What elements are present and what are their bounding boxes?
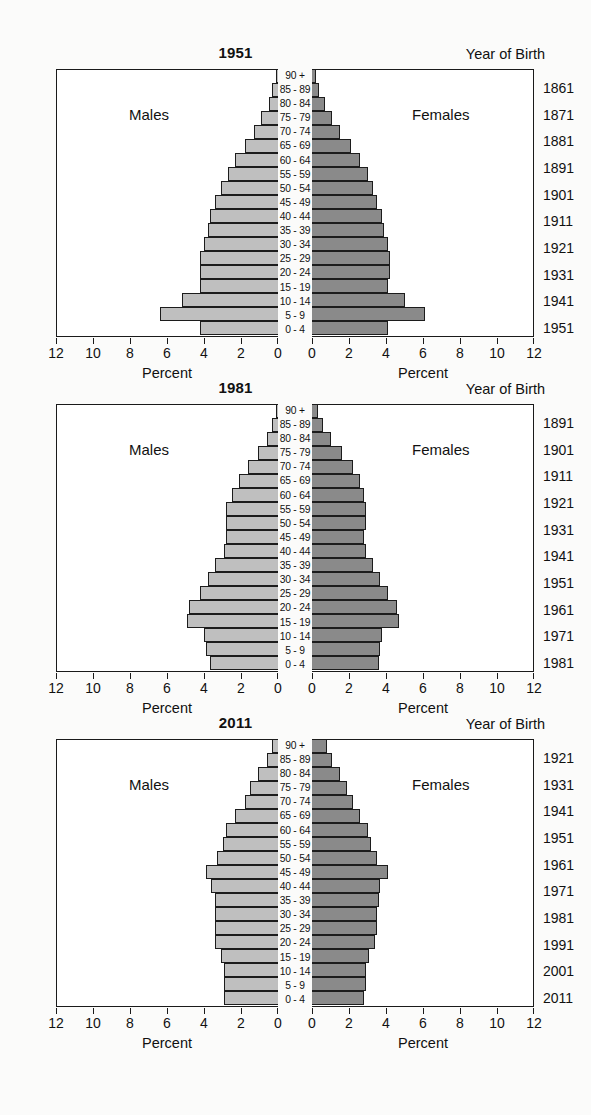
- females-panel: Females: [312, 404, 534, 672]
- axis-tick: [497, 338, 498, 344]
- axis-tick: [204, 338, 205, 344]
- axis-tick-label: 6: [419, 1015, 427, 1031]
- axis-tick-label: 0: [308, 345, 316, 361]
- age-group-label: 5 - 9: [278, 309, 312, 323]
- axis-tick: [386, 1008, 387, 1014]
- male-bar: [245, 795, 278, 809]
- axis-tick: [277, 673, 278, 679]
- axis-tick-label: 8: [456, 680, 464, 696]
- age-group-label: 25 - 29: [278, 587, 312, 601]
- male-bar: [187, 614, 278, 628]
- axis-tick: [277, 1008, 278, 1014]
- female-x-axis: 024681012Percent: [312, 673, 534, 703]
- axis-tick-label: 2: [345, 345, 353, 361]
- female-bar: [312, 153, 360, 167]
- bar-row: [312, 992, 533, 1006]
- axis-tick: [386, 673, 387, 679]
- year-of-birth-column: 1921193119411951196119711981199120012011: [534, 739, 591, 1007]
- male-bar: [215, 558, 278, 572]
- axis-tick-label: 10: [85, 1015, 101, 1031]
- female-bar: [312, 893, 379, 907]
- axis-tick: [423, 1008, 424, 1014]
- females-label: Females: [412, 776, 470, 793]
- age-group-label: 15 - 19: [278, 281, 312, 295]
- year-of-birth-label: 1911: [534, 469, 591, 483]
- female-bar: [312, 823, 368, 837]
- female-bar: [312, 181, 373, 195]
- males-label: Males: [129, 106, 169, 123]
- female-bar: [312, 167, 368, 181]
- male-bar: [224, 544, 278, 558]
- male-bar: [182, 293, 278, 307]
- age-group-label: 15 - 19: [278, 616, 312, 630]
- axis-tick: [93, 338, 94, 344]
- female-bar: [312, 209, 382, 223]
- bar-row: [312, 740, 533, 754]
- age-group-label: 10 - 14: [278, 965, 312, 979]
- male-bar: [239, 474, 278, 488]
- age-group-label: 85 - 89: [278, 83, 312, 97]
- male-bar: [269, 97, 278, 111]
- axis-tick: [56, 673, 57, 679]
- axis-tick-label: 8: [126, 680, 134, 696]
- bar-row: [312, 322, 533, 336]
- axis-tick: [349, 1008, 350, 1014]
- female-bar: [312, 921, 377, 935]
- axis-tick-label: 8: [126, 345, 134, 361]
- axis-title: Percent: [312, 1035, 534, 1051]
- age-group-label: 30 - 34: [278, 908, 312, 922]
- axis-tick-label: 4: [200, 680, 208, 696]
- axis-tick-label: 10: [85, 345, 101, 361]
- males-label: Males: [129, 776, 169, 793]
- axis-tick-label: 0: [308, 680, 316, 696]
- age-group-label: 60 - 64: [278, 154, 312, 168]
- age-group-axis: 90 +85 - 8980 - 8475 - 7970 - 7465 - 696…: [278, 69, 312, 337]
- axis-tick-label: 4: [382, 1015, 390, 1031]
- female-bar: [312, 97, 325, 111]
- year-of-birth-label: 1981: [534, 656, 591, 670]
- female-bar: [312, 907, 377, 921]
- axis-tick-label: 0: [308, 1015, 316, 1031]
- male-bar: [267, 432, 278, 446]
- female-bar: [312, 474, 360, 488]
- female-bar: [312, 837, 371, 851]
- year-of-birth-header: Year of Birth: [420, 716, 591, 732]
- year-of-birth-label: 1961: [534, 858, 591, 872]
- age-group-label: 35 - 39: [278, 224, 312, 238]
- age-group-label: 35 - 39: [278, 559, 312, 573]
- bar-row: [312, 754, 533, 768]
- year-of-birth-label: 1971: [534, 629, 591, 643]
- male-bar: [204, 237, 278, 251]
- year-of-birth-header: Year of Birth: [420, 381, 591, 397]
- male-bar: [200, 265, 278, 279]
- year-of-birth-label: 2011: [534, 991, 591, 1005]
- female-bar: [312, 321, 388, 335]
- bar-row: [57, 992, 278, 1006]
- female-bar: [312, 460, 353, 474]
- age-group-label: 80 - 84: [278, 767, 312, 781]
- axis-tick: [533, 338, 534, 344]
- males-label: Males: [129, 441, 169, 458]
- age-group-label: 40 - 44: [278, 210, 312, 224]
- female-bar: [312, 265, 390, 279]
- axis-tick: [241, 673, 242, 679]
- age-group-label: 70 - 74: [278, 795, 312, 809]
- age-group-label: 70 - 74: [278, 125, 312, 139]
- axis-tick: [533, 1008, 534, 1014]
- age-group-label: 35 - 39: [278, 894, 312, 908]
- male-bar: [258, 446, 278, 460]
- year-of-birth-header: Year of Birth: [420, 46, 591, 62]
- axis-tick-label: 2: [237, 680, 245, 696]
- axis-tick-label: 6: [163, 680, 171, 696]
- axis-tick-label: 2: [237, 345, 245, 361]
- female-bar: [312, 935, 375, 949]
- axis-tick-label: 12: [48, 1015, 64, 1031]
- year-of-birth-column: 1891190119111921193119411951196119711981: [534, 404, 591, 672]
- plot-area: MalesFemales90 +85 - 8980 - 8475 - 7970 …: [0, 404, 591, 672]
- female-bar: [312, 69, 316, 83]
- axis-tick: [241, 338, 242, 344]
- bar-row: [312, 657, 533, 671]
- axis-tick-label: 4: [382, 680, 390, 696]
- age-group-label: 55 - 59: [278, 168, 312, 182]
- age-group-label: 50 - 54: [278, 852, 312, 866]
